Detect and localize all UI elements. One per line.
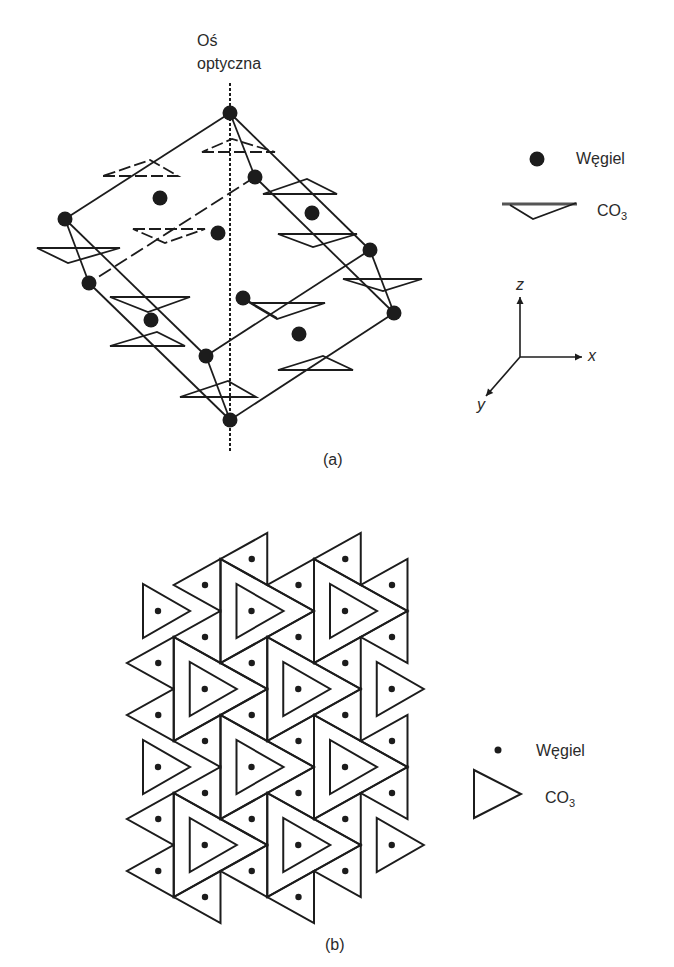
co3-small-triangle: [174, 871, 221, 923]
carbon-dot-icon: [155, 608, 161, 614]
co3-group-icon: [278, 234, 357, 247]
carbon-dot-icon: [342, 660, 348, 666]
co3-group-icon: [250, 303, 325, 319]
carbon-dot-icon: [295, 634, 301, 640]
co3-small-triangle: [361, 715, 408, 767]
optical-axis-label-line1: Oś: [197, 33, 261, 49]
carbon-dot-icon: [249, 660, 255, 666]
co3-small-triangle: [267, 715, 314, 767]
co3-inner-triangle: [143, 584, 190, 638]
carbon-atom-icon: [363, 243, 378, 258]
carbon-dot-icon: [389, 842, 395, 848]
carbon-dot-icon: [202, 842, 208, 848]
panel-b-legend: [474, 747, 521, 819]
co3-small-triangle: [221, 845, 268, 897]
carbon-dot-icon: [295, 894, 301, 900]
co3-small-triangle: [267, 611, 314, 663]
co3-small-triangle: [127, 689, 174, 741]
co3-small-triangle: [221, 637, 268, 689]
carbon-dot-icon: [342, 556, 348, 562]
carbon-atom-icon: [211, 226, 226, 241]
co3-small-triangle: [314, 689, 361, 741]
carbon-dot-icon: [249, 816, 255, 822]
co3-inner-triangle: [283, 818, 330, 872]
carbon-dot-icon: [155, 868, 161, 874]
co3-small-triangle: [267, 871, 314, 923]
co3-inner-triangle: [377, 818, 424, 872]
carbon-dot-icon: [202, 582, 208, 588]
coordinate-axes: [486, 297, 582, 396]
legend-carbon-dot-icon: [495, 747, 502, 754]
co3-inner-triangle: [283, 662, 330, 716]
co3-inner-triangle: [330, 740, 377, 794]
carbon-dot-icon: [248, 608, 254, 614]
co3-small-triangle: [314, 533, 361, 585]
legend-co3-triangle-icon: [474, 770, 521, 818]
carbon-dot-icon: [155, 712, 161, 718]
co3-small-triangle: [314, 793, 361, 845]
carbon-atom-icon: [82, 276, 97, 291]
carbon-dot-icon: [342, 764, 348, 770]
co3-small-triangle: [267, 767, 314, 819]
axis-z-arrow-icon: [517, 297, 524, 304]
carbon-dot-icon: [295, 686, 301, 692]
co3-subscript: 3: [621, 210, 627, 222]
co3-small-triangle: [314, 845, 361, 897]
co3-small-triangles: [127, 533, 408, 923]
carbon-atom-icon: [387, 306, 402, 321]
carbon-atom-icon: [223, 413, 238, 428]
carbon-dot-icon: [202, 634, 208, 640]
co3-text: CO: [597, 202, 621, 219]
co3-small-triangle: [127, 793, 174, 845]
rhombohedron-edge: [230, 313, 394, 420]
co3-small-triangle: [127, 637, 174, 689]
panel-b-tiling: [127, 533, 521, 923]
panel-a-legend: [502, 152, 577, 220]
rhombohedron-edge: [65, 113, 230, 219]
panel-a-rhombohedron: [37, 83, 582, 452]
co3-small-triangle: [221, 533, 268, 585]
co3-inner-triangle: [190, 662, 237, 716]
carbon-dot-icon: [295, 582, 301, 588]
co3-group-icon: [263, 179, 337, 194]
rhombohedron-edge: [370, 250, 394, 313]
carbon-dot-icon: [295, 738, 301, 744]
axis-x-arrow-icon: [575, 354, 582, 361]
co3-inner-triangle: [237, 740, 284, 794]
carbon-atom-icon: [236, 291, 251, 306]
co3-inner-triangle: [377, 662, 424, 716]
axis-x-label: x: [588, 348, 596, 364]
co3-inner-triangle: [330, 584, 377, 638]
co3-small-triangle: [127, 845, 174, 897]
co3-small-triangle: [361, 767, 408, 819]
carbon-dot-icon: [155, 816, 161, 822]
co3-small-triangle: [174, 767, 221, 819]
carbon-atom-icon: [223, 106, 238, 121]
carbon-dot-icon: [389, 686, 395, 692]
carbon-dot-icon: [342, 868, 348, 874]
co3-inner-triangle: [237, 584, 284, 638]
carbon-dot-icon: [249, 868, 255, 874]
carbon-dot-icon: [389, 582, 395, 588]
carbon-dot-icon: [155, 764, 161, 770]
co3-small-triangle: [221, 689, 268, 741]
carbon-dot-icon: [202, 686, 208, 692]
co3-inner-triangle: [190, 818, 237, 872]
carbon-dot-icon: [295, 790, 301, 796]
legend-a-co3-label: CO3: [597, 203, 627, 222]
legend-a-carbon-label: Węgiel: [576, 151, 625, 167]
co3-small-triangle: [221, 793, 268, 845]
optical-axis-label-line2: optyczna: [197, 56, 261, 72]
carbon-dot-icon: [295, 842, 301, 848]
carbon-atom-icon: [144, 313, 159, 328]
carbon-dot-icon: [249, 712, 255, 718]
axis-y-label: y: [477, 397, 485, 413]
carbon-dot-icon: [248, 764, 254, 770]
carbon-dot-icon: [342, 712, 348, 718]
carbon-atom-icon: [248, 170, 263, 185]
co3-small-triangle: [314, 637, 361, 689]
co3-small-triangle: [174, 611, 221, 663]
co3-small-triangle: [174, 715, 221, 767]
co3-subscript: 3: [569, 797, 575, 809]
carbon-dot-icon: [202, 894, 208, 900]
